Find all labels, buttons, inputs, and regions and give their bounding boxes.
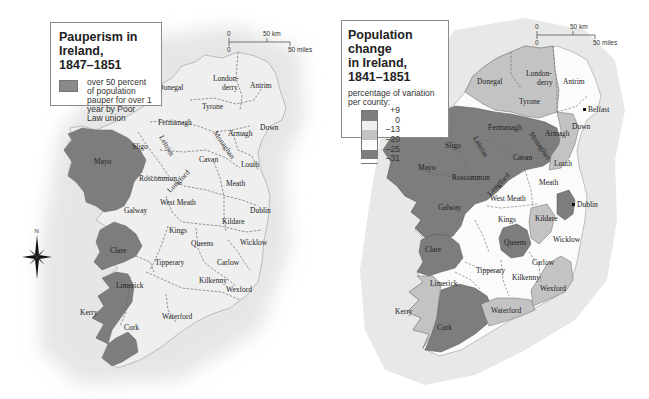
label-donegal: Donegal [477,77,502,86]
pauperism-legend: Pauperism in Ireland, 1847–1851 over 50 … [50,22,162,106]
label-galway: Galway [438,203,462,212]
legend-swatch [59,80,78,92]
svg-text:50 km: 50 km [263,30,281,37]
label-londonderry-1: London- [526,69,552,78]
label-sligo: Sligo [445,141,461,150]
label-mayo: Mayo [418,163,436,172]
label-wicklow: Wicklow [240,238,268,247]
label-louth: Louth [554,159,572,168]
label-fermanagh: Fermanagh [488,123,522,132]
svg-text:N: N [35,228,39,234]
scale-label: –31 [384,154,400,164]
label-armagh: Armagh [228,129,253,138]
svg-text:0: 0 [227,46,231,53]
legend-item: over 50 percent of population pauper for… [59,78,153,123]
label-tyrone: Tyrone [202,102,224,111]
label-cork: Cork [437,323,452,332]
label-londonderry-2: derry [222,83,238,92]
label-tipperary: Tipperary [476,266,506,275]
swatch-minus13-to-minus20 [361,130,378,140]
label-tyrone: Tyrone [519,97,541,106]
label-kings: Kings [498,215,516,224]
svg-text:50 km: 50 km [570,23,588,30]
population-change-legend: Population change in Ireland, 1841–1851 … [341,20,449,138]
label-tipperary: Tipperary [155,258,185,267]
label-waterford: Waterford [491,306,521,315]
label-mayo: Mayo [94,157,112,166]
pauperism-map-panel: Donegal London- derry Antrim Tyrone Ferm… [0,0,325,399]
svg-text:0: 0 [227,30,231,37]
legend-title-line1: Population change [348,28,442,56]
label-meath: Meath [539,178,558,187]
legend-color-scale: +9 0 –13 –20 –25 –31 [361,110,442,164]
label-roscommon: Roscommon [452,173,490,182]
label-sligo: Sligo [132,142,148,151]
label-meath: Meath [226,179,245,188]
label-belfast: Belfast [588,105,610,114]
label-galway: Galway [124,206,148,215]
swatch-plus9-to-0 [361,111,378,121]
label-wexford: Wexford [540,284,566,293]
label-antrim: Antrim [250,81,272,90]
svg-text:50 miles: 50 miles [288,46,313,53]
label-kildare: Kildare [535,214,558,223]
label-down: Down [260,123,279,132]
label-queens: Queens [191,239,214,248]
label-queens: Queens [504,238,527,247]
label-kilkenny: Kilkenny [512,273,540,282]
label-west-meath: West Meath [160,198,196,207]
label-limerick: Limerick [116,281,144,290]
legend-title-line2: 1847–1851 [59,58,153,72]
label-kerry: Kerry [80,308,98,317]
legend-item-text: over 50 percent of population pauper for… [87,78,153,123]
swatch-minus25-to-minus31 [361,150,378,160]
label-kilkenny: Kilkenny [199,276,227,285]
label-cavan: Cavan [199,155,218,164]
label-antrim: Antrim [563,77,585,86]
label-kings: Kings [169,226,187,235]
legend-title-line1: Pauperism in Ireland, [59,30,153,58]
dublin-marker [572,203,575,206]
label-limerick: Limerick [430,279,458,288]
population-change-map-panel: Belfast Dublin Donegal London- derry Ant… [325,0,649,399]
label-londonderry-2: derry [537,78,553,87]
belfast-marker [583,108,586,111]
label-cork: Cork [124,323,139,332]
label-cavan: Cavan [513,153,532,162]
svg-text:0: 0 [535,39,539,46]
pauperism-map: Donegal London- derry Antrim Tyrone Ferm… [0,0,325,399]
label-west-meath: West Meath [490,194,526,203]
label-kildare: Kildare [222,217,245,226]
label-armagh: Armagh [545,129,570,138]
label-waterford: Waterford [162,312,192,321]
label-wexford: Wexford [226,285,252,294]
label-wicklow: Wicklow [553,235,581,244]
label-louth: Louth [241,160,259,169]
label-dublin: Dublin [577,200,598,209]
label-clare: Clare [425,245,442,254]
swatch-0-to-minus13 [361,121,378,131]
label-clare: Clare [110,246,127,255]
label-carlow: Carlow [532,258,555,267]
legend-title-line2: in Ireland, 1841–1851 [348,56,442,84]
label-dublin: Dublin [250,206,271,215]
label-carlow: Carlow [217,258,240,267]
svg-text:0: 0 [535,23,539,30]
label-fermanagh: Fermanagh [158,118,192,127]
swatch-minus20-to-minus25 [361,140,378,150]
label-londonderry-1: London- [213,74,239,83]
label-down: Down [572,122,591,131]
svg-text:50 miles: 50 miles [593,39,618,46]
label-kerry: Kerry [395,307,413,316]
